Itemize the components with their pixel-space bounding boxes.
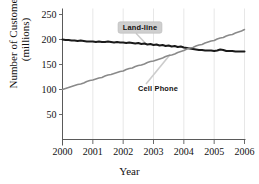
gridlines bbox=[93, 9, 245, 140]
land-line-label: Land-line bbox=[123, 23, 158, 32]
x-axis-label: Year bbox=[0, 165, 259, 177]
x-tick-label: 2002 bbox=[113, 146, 133, 157]
annotation-cell-phone: Cell Phone bbox=[138, 84, 178, 93]
x-tick-label: 2001 bbox=[83, 146, 103, 157]
chart-svg: 50100150200250 2000200120022003200420052… bbox=[0, 0, 259, 184]
y-axis-label-line2: (millions) bbox=[19, 0, 31, 100]
x-tick-label: 2004 bbox=[174, 146, 194, 157]
chart-figure: Number of Customers (millions) Year 5010… bbox=[0, 0, 259, 184]
y-axis-label-line1: Number of Customers bbox=[8, 0, 20, 100]
x-axis-ticks: 2000200120022003200420052006 bbox=[53, 140, 255, 157]
y-tick-label: 250 bbox=[42, 9, 57, 20]
y-axis-ticks: 50100150200250 bbox=[42, 9, 63, 120]
x-tick-label: 2006 bbox=[235, 146, 255, 157]
y-tick-label: 200 bbox=[42, 34, 57, 45]
x-tick-label: 2003 bbox=[144, 146, 164, 157]
cell-phone-label: Cell Phone bbox=[138, 84, 178, 93]
y-axis-label: Number of Customers (millions) bbox=[8, 0, 31, 100]
x-tick-label: 2005 bbox=[204, 146, 224, 157]
y-tick-label: 100 bbox=[42, 84, 57, 95]
annotation-land-line: Land-line bbox=[118, 22, 162, 34]
y-tick-label: 150 bbox=[42, 59, 57, 70]
y-tick-label: 50 bbox=[47, 109, 57, 120]
x-tick-label: 2000 bbox=[53, 146, 73, 157]
